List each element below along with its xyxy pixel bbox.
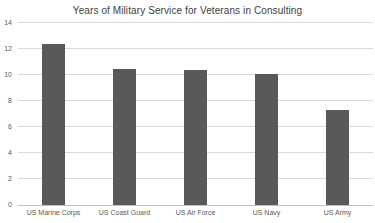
- bar-us-marine-corps: [42, 44, 65, 205]
- gridline: [18, 48, 373, 49]
- x-tick-label: US Coast Guard: [89, 208, 160, 217]
- bar-us-army: [326, 110, 349, 205]
- y-tick-label: 2: [8, 175, 12, 183]
- y-tick-label: 4: [8, 149, 12, 157]
- y-tick-label: 8: [8, 97, 12, 105]
- x-axis: US Marine CorpsUS Coast GuardUS Air Forc…: [18, 208, 373, 220]
- bar-us-coast-guard: [113, 69, 136, 206]
- x-tick-label: US Navy: [231, 208, 302, 217]
- bar-chart: Years of Military Service for Veterans i…: [0, 0, 375, 223]
- y-tick-label: 6: [8, 123, 12, 131]
- y-tick-label: 0: [8, 201, 12, 209]
- y-tick-label: 14: [4, 19, 12, 27]
- y-tick-label: 10: [4, 71, 12, 79]
- chart-title: Years of Military Service for Veterans i…: [0, 5, 375, 16]
- x-tick-label: US Army: [302, 208, 373, 217]
- x-tick-label: US Air Force: [160, 208, 231, 217]
- y-axis: 02468101214: [0, 23, 14, 206]
- bar-us-air-force: [184, 70, 207, 205]
- x-tick-label: US Marine Corps: [18, 208, 89, 217]
- y-tick-label: 12: [4, 45, 12, 53]
- bar-us-navy: [255, 74, 278, 205]
- gridline: [18, 22, 373, 23]
- plot-area: [18, 23, 373, 206]
